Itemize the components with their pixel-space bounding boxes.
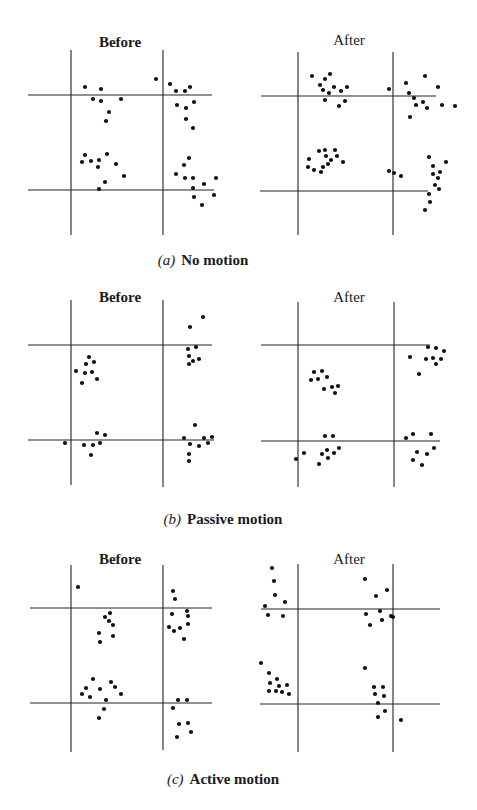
dot bbox=[270, 566, 274, 570]
dot bbox=[432, 446, 436, 450]
dot bbox=[414, 103, 418, 107]
dot bbox=[425, 452, 429, 456]
panel-c-caption: (c)Active motion bbox=[167, 771, 279, 788]
dot bbox=[177, 722, 181, 726]
dot bbox=[417, 372, 421, 376]
dot bbox=[433, 183, 437, 187]
dot bbox=[191, 186, 195, 190]
dot bbox=[302, 451, 306, 455]
dot bbox=[263, 604, 267, 608]
dot bbox=[184, 106, 188, 110]
dot bbox=[202, 182, 206, 186]
dot bbox=[210, 435, 214, 439]
panel-c-caption-letter: (c) bbox=[167, 771, 184, 787]
dot bbox=[294, 457, 298, 461]
dot bbox=[332, 85, 336, 89]
panel-b-caption: (b)Passive motion bbox=[164, 511, 283, 528]
figure: Before After (a)No motion Before After (… bbox=[0, 0, 477, 810]
dot bbox=[285, 683, 289, 687]
panel-c-after-title: After bbox=[333, 551, 365, 568]
dot bbox=[168, 82, 172, 86]
dot bbox=[399, 174, 403, 178]
dot bbox=[191, 176, 195, 180]
dot bbox=[201, 315, 205, 319]
dot bbox=[442, 349, 446, 353]
dot bbox=[333, 148, 337, 152]
dot bbox=[192, 195, 196, 199]
dot bbox=[176, 698, 180, 702]
dot bbox=[337, 446, 341, 450]
dot bbox=[275, 677, 279, 681]
dot bbox=[97, 158, 101, 162]
dot bbox=[376, 715, 380, 719]
dot bbox=[98, 441, 102, 445]
dot bbox=[178, 626, 182, 630]
dot bbox=[330, 385, 334, 389]
dot bbox=[104, 698, 108, 702]
dot bbox=[426, 345, 430, 349]
dot bbox=[440, 103, 444, 107]
dot bbox=[83, 371, 87, 375]
dot bbox=[281, 614, 285, 618]
dot bbox=[321, 165, 325, 169]
panel-a-after-grid bbox=[260, 52, 457, 235]
dot bbox=[188, 85, 192, 89]
dot bbox=[404, 436, 408, 440]
dot bbox=[187, 459, 191, 463]
dot bbox=[438, 170, 442, 174]
panel-b-before-title: Before bbox=[99, 289, 141, 306]
panel-b-after-grid bbox=[261, 302, 446, 487]
dot bbox=[74, 369, 78, 373]
panel-a-caption-letter: (a) bbox=[158, 252, 176, 268]
dot bbox=[214, 176, 218, 180]
dot bbox=[372, 685, 376, 689]
dot-grid-diagram bbox=[0, 0, 477, 810]
dot bbox=[89, 159, 93, 163]
dot bbox=[408, 115, 412, 119]
dot bbox=[84, 686, 88, 690]
dot bbox=[175, 735, 179, 739]
dot bbox=[192, 100, 196, 104]
dot bbox=[309, 378, 313, 382]
dot bbox=[173, 597, 177, 601]
dot bbox=[316, 377, 320, 381]
dot bbox=[273, 593, 277, 597]
dot bbox=[95, 377, 99, 381]
dot bbox=[119, 97, 123, 101]
dot bbox=[266, 613, 270, 617]
dot bbox=[321, 88, 325, 92]
dot bbox=[415, 450, 419, 454]
dot bbox=[191, 359, 195, 363]
dot bbox=[186, 721, 190, 725]
dot bbox=[183, 176, 187, 180]
dot bbox=[103, 180, 107, 184]
dot bbox=[91, 677, 95, 681]
dot bbox=[187, 156, 191, 160]
dot bbox=[423, 208, 427, 212]
dot bbox=[83, 85, 87, 89]
dot bbox=[335, 154, 339, 158]
dot bbox=[339, 89, 343, 93]
dot bbox=[183, 89, 187, 93]
dot bbox=[341, 160, 345, 164]
panel-c-after-grid bbox=[259, 564, 440, 752]
dot bbox=[428, 200, 432, 204]
dot bbox=[102, 707, 106, 711]
dot bbox=[259, 661, 263, 665]
dot bbox=[425, 106, 429, 110]
dot bbox=[427, 192, 431, 196]
dot bbox=[424, 357, 428, 361]
dot bbox=[306, 165, 310, 169]
dot bbox=[172, 629, 176, 633]
dot bbox=[325, 448, 329, 452]
panel-a-caption-text: No motion bbox=[181, 252, 248, 268]
dot bbox=[63, 441, 67, 445]
dot bbox=[310, 74, 314, 78]
dot bbox=[267, 689, 271, 693]
panel-a-before-grid bbox=[28, 50, 218, 235]
dot bbox=[380, 618, 384, 622]
dot bbox=[373, 692, 377, 696]
dot bbox=[319, 170, 323, 174]
dot bbox=[411, 432, 415, 436]
dot bbox=[103, 615, 107, 619]
